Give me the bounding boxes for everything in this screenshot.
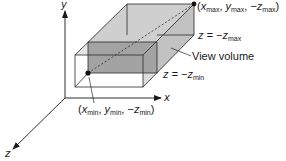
min-corner-label: (xmin, ymin, −zmin): [78, 103, 154, 116]
z-axis-label: z: [4, 148, 11, 159]
y-axis-label: y: [60, 0, 68, 10]
min-corner-point: [85, 70, 90, 75]
far-plane-label: z = −zmax: [197, 29, 242, 42]
max-corner-point: [192, 2, 197, 7]
view-volume-diagram: y x z (xmax, ymax, −zmax) z = −zmax View…: [0, 0, 286, 161]
x-axis-label: x: [163, 92, 170, 103]
min-corner-leader: [89, 77, 94, 103]
max-corner-label: (xmax, ymax, −zmax): [197, 0, 279, 13]
front-face: [88, 42, 157, 73]
view-volume-label: View volume: [192, 50, 254, 62]
view-volume-box: [88, 4, 194, 73]
near-plane-label: z = −zmin: [162, 68, 204, 81]
z-axis: [13, 98, 65, 149]
